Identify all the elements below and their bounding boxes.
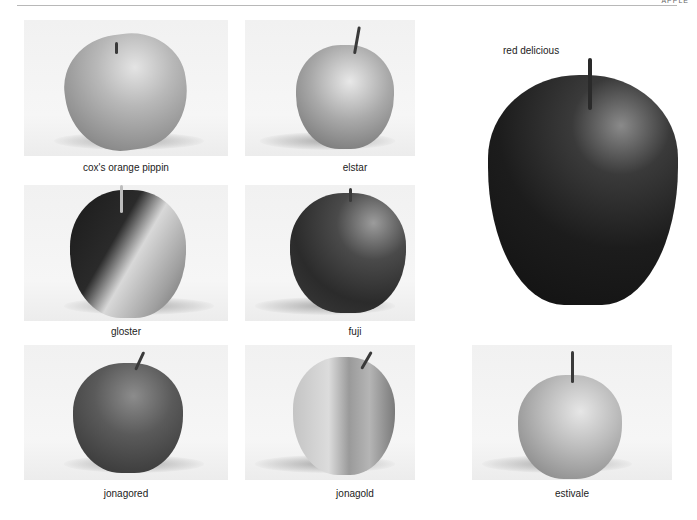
caption-jonagored: jonagored xyxy=(24,488,228,499)
apple-image xyxy=(296,45,394,149)
apple-image xyxy=(70,190,186,318)
apple-photo-elstar xyxy=(245,20,415,156)
running-head: APPLE xyxy=(661,0,689,4)
top-rule xyxy=(17,5,677,6)
apple-image xyxy=(518,375,622,479)
apple-photo-fuji xyxy=(245,185,415,321)
apple-image xyxy=(293,357,395,475)
apple-photo-red-delicious xyxy=(480,55,690,310)
apple-stem xyxy=(349,188,352,202)
caption-cox: cox's orange pippin xyxy=(24,162,228,173)
apple-image xyxy=(290,193,406,313)
apple-photo-gloster xyxy=(24,185,228,321)
caption-jonagold: jonagold xyxy=(245,488,465,499)
caption-estivale: estivale xyxy=(472,488,672,499)
apple-stem xyxy=(588,58,592,110)
caption-elstar: elstar xyxy=(245,162,465,173)
apple-photo-cox xyxy=(24,20,228,156)
apple-image xyxy=(488,75,678,305)
caption-gloster: gloster xyxy=(24,326,228,337)
apple-stem xyxy=(571,351,574,383)
apple-stem xyxy=(120,185,123,213)
apple-image xyxy=(73,363,183,473)
apple-photo-estivale xyxy=(472,345,672,480)
caption-fuji: fuji xyxy=(245,326,465,337)
apple-stem xyxy=(115,42,118,54)
apple-photo-jonagold xyxy=(245,345,415,480)
apple-photo-jonagored xyxy=(24,345,228,480)
